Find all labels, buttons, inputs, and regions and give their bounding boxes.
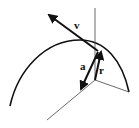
- radius-line-right: [95, 80, 129, 92]
- radius-line-lower-left: [47, 80, 95, 120]
- velocity-label: v: [74, 19, 80, 31]
- acceleration-label: a: [80, 60, 86, 72]
- circular-motion-diagram: v a r: [0, 0, 139, 128]
- trajectory-arc: [10, 40, 129, 106]
- radius-label: r: [99, 64, 104, 76]
